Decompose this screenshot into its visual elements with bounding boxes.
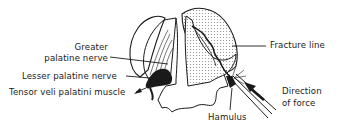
label-tensor-veli-palatini: Tensor veli palatini muscle — [9, 87, 126, 98]
force-arrow-icon — [244, 82, 264, 100]
palate-illustration — [0, 0, 341, 133]
label-direction-line2: of force — [282, 98, 315, 109]
label-greater-palatine-line2: palatine nerve — [28, 53, 108, 64]
label-fracture-line: Fracture line — [270, 40, 325, 51]
label-lesser-palatine-nerve: Lesser palatine nerve — [22, 71, 117, 82]
left-palate-outline — [130, 16, 165, 77]
label-greater-palatine-line1: Greater — [54, 42, 108, 53]
label-hamulus: Hamulus — [208, 112, 247, 123]
label-direction-line1: Direction — [282, 86, 322, 97]
tensor-leader-arrowhead — [134, 88, 142, 94]
